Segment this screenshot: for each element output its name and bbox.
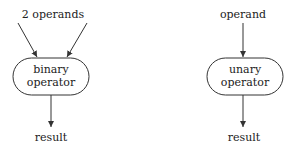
binary-node-line1: binary — [33, 63, 69, 76]
unary-input-label: operand — [220, 8, 266, 21]
operand-arrow-left — [18, 23, 37, 57]
binary-node-line2: operator — [27, 76, 75, 89]
operator-diagram: 2 operands binary operator result operan… — [0, 0, 295, 151]
binary-input-label: 2 operands — [22, 8, 84, 21]
unary-node-line2: operator — [221, 76, 269, 89]
operand-arrow-right — [67, 23, 87, 57]
unary-node-line1: unary — [229, 63, 261, 76]
unary-output-label: result — [228, 131, 260, 144]
binary-output-label: result — [35, 131, 67, 144]
